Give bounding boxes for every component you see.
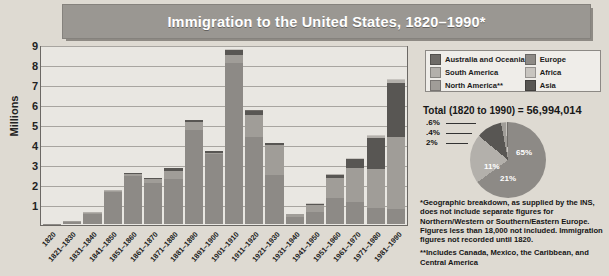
bar-column	[103, 48, 123, 224]
bar	[286, 214, 304, 224]
y-tick-label: 2	[32, 180, 38, 192]
bar-segment	[387, 137, 405, 209]
legend-swatch-oceania	[430, 54, 441, 65]
y-tick-label: 5	[32, 120, 38, 132]
legend-item-asia: Asia	[525, 80, 579, 91]
y-axis-ticks: 987654321	[14, 46, 38, 226]
bar-segment	[83, 214, 101, 224]
bar	[306, 203, 324, 224]
legend-label: Africa	[540, 68, 562, 77]
pie-leader-line	[446, 123, 476, 124]
legend-label: South America	[445, 68, 498, 77]
y-tick-label: 9	[32, 40, 38, 52]
legend-label: Australia and Oceania	[445, 55, 525, 64]
bar-segment	[104, 192, 122, 224]
bar-segment	[245, 137, 263, 224]
bar-segment	[124, 176, 142, 224]
bar-segment	[225, 63, 243, 224]
bar-segment	[367, 169, 385, 208]
bar-column	[82, 48, 102, 224]
pie-leader-line	[446, 133, 472, 134]
legend-swatch-africa	[525, 67, 536, 78]
bar-segment	[185, 130, 203, 224]
bar-column	[325, 48, 345, 224]
page-title: Immigration to the United States, 1820–1…	[167, 14, 485, 30]
gridline	[41, 46, 407, 47]
y-tick-label: 3	[32, 160, 38, 172]
bar-column	[163, 48, 183, 224]
bar-column	[143, 48, 163, 224]
pie-slice-label: 11%	[484, 162, 500, 171]
bar-column	[184, 48, 204, 224]
bar	[265, 143, 283, 224]
bar-segment	[164, 171, 182, 179]
bar-column	[366, 48, 386, 224]
legend-swatch-europe	[525, 54, 536, 65]
bar	[144, 178, 162, 224]
bar-column	[62, 48, 82, 224]
legend-label: Europe	[540, 55, 566, 64]
bar	[245, 110, 263, 224]
legend-label: North America**	[445, 81, 503, 90]
legend-item-oceania: Australia and Oceania	[430, 54, 525, 65]
bar-column	[244, 48, 264, 224]
footnotes: *Geographic breakdown, as supplied by th…	[420, 198, 606, 271]
bar-segment	[225, 55, 243, 63]
bar-segment	[185, 122, 203, 131]
bar-segment	[245, 115, 263, 138]
bar	[346, 158, 364, 224]
legend-item-north_america: North America**	[430, 80, 525, 91]
bar	[124, 173, 142, 224]
total-prefix: Total (1820 to 1990) =	[423, 105, 526, 116]
bar	[104, 190, 122, 224]
legend-item-africa: Africa	[525, 67, 579, 78]
bar	[225, 49, 243, 224]
bar-column	[42, 48, 62, 224]
bar-series	[42, 48, 406, 224]
bar-segment	[367, 138, 385, 169]
footnote-2: **Includes Canada, Mexico, the Caribbean…	[420, 248, 606, 267]
total-line: Total (1820 to 1990) = 56,994,014	[423, 104, 605, 116]
bar-column	[204, 48, 224, 224]
infographic-root: Immigration to the United States, 1820–1…	[0, 0, 609, 276]
y-tick-label: 4	[32, 140, 38, 152]
pie-slice-label: 65%	[516, 148, 532, 157]
bar-segment	[205, 154, 223, 224]
bar-segment	[306, 212, 324, 224]
pie-chart: 65%21%11%2%.4%.6%	[470, 122, 550, 198]
total-value: 56,994,014	[526, 104, 581, 116]
legend: Australia and OceaniaEuropeSouth America…	[425, 50, 601, 92]
bar	[367, 135, 385, 224]
pie-slice-callout: .6%	[426, 118, 440, 127]
y-tick-label: 7	[32, 80, 38, 92]
bar-segment	[265, 145, 283, 175]
x-tick: 1981–1990	[387, 228, 407, 276]
bar-column	[285, 48, 305, 224]
bar-segment	[367, 208, 385, 224]
bar-segment	[346, 159, 364, 168]
bar-column	[345, 48, 365, 224]
bar-column	[224, 48, 244, 224]
bar-column	[386, 48, 406, 224]
footnote-1: *Geographic breakdown, as supplied by th…	[420, 198, 606, 244]
y-tick-label: 6	[32, 100, 38, 112]
legend-swatch-north_america	[430, 80, 441, 91]
legend-swatch-south_america	[430, 67, 441, 78]
legend-item-europe: Europe	[525, 54, 579, 65]
pie-slice-callout: 2%	[426, 138, 438, 147]
bar-segment	[306, 205, 324, 212]
pie-slice-label: 21%	[500, 174, 516, 183]
bar-segment	[144, 183, 162, 224]
bar	[205, 151, 223, 224]
bar-segment	[286, 217, 304, 224]
bar-segment	[346, 168, 364, 202]
bar-segment	[326, 198, 344, 224]
pie-slice-callout: .4%	[426, 128, 440, 137]
bar	[83, 212, 101, 224]
bar-column	[264, 48, 284, 224]
bar	[63, 221, 81, 224]
bar	[185, 120, 203, 224]
legend-label: Asia	[540, 81, 556, 90]
title-banner: Immigration to the United States, 1820–1…	[62, 4, 591, 39]
plot-area	[40, 46, 408, 226]
